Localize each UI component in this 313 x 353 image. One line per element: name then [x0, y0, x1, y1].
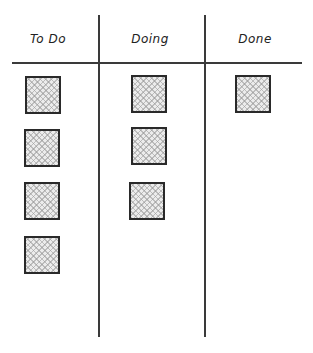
doing-card-3[interactable] [129, 182, 165, 220]
done-card-1[interactable] [235, 75, 271, 113]
todo-card-1[interactable] [25, 76, 61, 114]
column-header-doing: Doing [105, 32, 195, 46]
todo-card-4[interactable] [24, 236, 60, 274]
column-header-done: Done [210, 32, 300, 46]
column-header-todo: To Do [3, 32, 93, 46]
doing-card-2[interactable] [131, 127, 167, 165]
doing-card-1[interactable] [131, 75, 167, 113]
todo-card-2[interactable] [24, 129, 60, 167]
todo-card-3[interactable] [24, 182, 60, 220]
header-divider [12, 62, 302, 64]
